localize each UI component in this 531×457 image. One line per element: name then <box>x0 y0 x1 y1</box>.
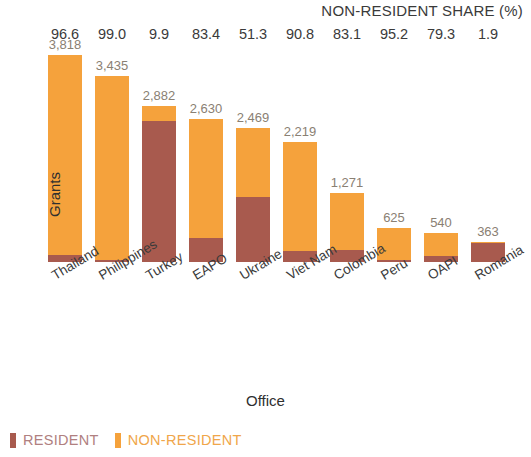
bar-viet-nam[interactable] <box>283 142 317 262</box>
legend-label-resident: RESIDENT <box>23 432 99 448</box>
bar-philippines[interactable] <box>95 76 129 262</box>
legend-swatch-resident <box>10 433 16 448</box>
x-axis-title: Office <box>0 392 531 409</box>
bar-eapo[interactable] <box>189 119 223 262</box>
bar-value-label: 1,271 <box>317 175 377 190</box>
legend-swatch-non-resident <box>115 433 121 448</box>
bar-ukraine[interactable] <box>236 128 270 262</box>
bar-segment-non-resident <box>189 119 223 238</box>
bar-segment-non-resident <box>283 142 317 251</box>
bar-value-label: 3,435 <box>82 58 142 73</box>
chart-container: NON-RESIDENT SHARE (%) 96.699.09.983.451… <box>0 0 531 457</box>
y-axis-title: Grants <box>46 135 63 255</box>
bar-segment-non-resident <box>330 193 364 250</box>
bar-value-label: 2,219 <box>270 124 330 139</box>
legend-label-non-resident: NON-RESIDENT <box>128 432 242 448</box>
bar-segment-non-resident <box>236 128 270 197</box>
bar-segment-non-resident <box>95 76 129 260</box>
bar-value-label: 363 <box>458 224 518 239</box>
legend: RESIDENT NON-RESIDENT <box>10 432 242 448</box>
plot-area: 3,8183,4352,8822,6302,4692,2191,27162554… <box>0 0 531 265</box>
bar-segment-non-resident <box>142 106 176 121</box>
bar-value-label: 3,818 <box>35 37 95 52</box>
legend-item-resident[interactable]: RESIDENT <box>10 432 99 448</box>
legend-item-non-resident[interactable]: NON-RESIDENT <box>115 432 242 448</box>
bar-segment-non-resident <box>424 233 458 256</box>
